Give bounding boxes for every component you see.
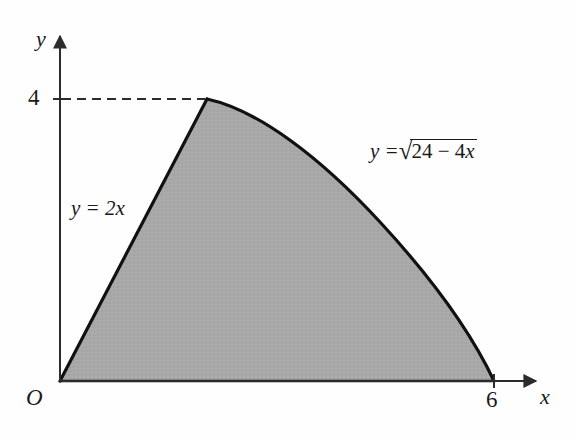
radicand-numeric: 24 − 4 [411, 139, 465, 163]
math-figure-region-diagram: y x 4 6 O y = 2x y =√24 − 4x [0, 0, 574, 438]
y-axis-label: y [36, 28, 46, 50]
x-axis-label: x [540, 386, 550, 408]
origin-label: O [26, 386, 43, 409]
radicand-variable: x [465, 139, 474, 163]
radicand: 24 − 4x [410, 139, 476, 162]
x-tick-label-6: 6 [486, 388, 498, 411]
curve-equation-lhs: y = [370, 139, 399, 163]
line-equation-label: y = 2x [71, 198, 125, 219]
y-tick-label-4: 4 [28, 86, 40, 109]
curve-equation-label: y =√24 − 4x [370, 137, 477, 162]
radical-sign-icon: √ [399, 138, 413, 163]
